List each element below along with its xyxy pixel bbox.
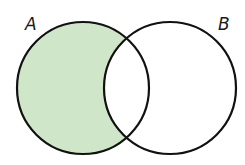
set-a-label: A xyxy=(24,14,37,34)
venn-diagram: A B xyxy=(0,0,245,165)
set-b-label: B xyxy=(218,14,230,34)
